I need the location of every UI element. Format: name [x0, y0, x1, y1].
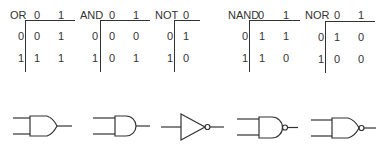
and-gate-icon	[93, 116, 150, 136]
not-gate-icon	[161, 114, 224, 140]
nand-gate-icon	[237, 117, 298, 138]
nor-gate-icon	[311, 118, 376, 138]
gate-symbols	[0, 0, 391, 149]
or-gate-icon	[13, 116, 72, 136]
